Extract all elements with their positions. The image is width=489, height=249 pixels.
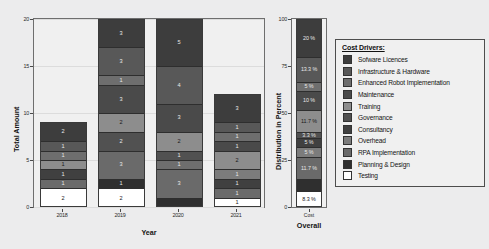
overall-y-axis-tick-mark bbox=[288, 207, 291, 208]
bar-segment[interactable]: 20 % bbox=[297, 20, 321, 58]
bar-segment[interactable]: 3 bbox=[215, 95, 260, 123]
y-axis-tick-mark bbox=[30, 19, 33, 20]
bar-segment[interactable]: 1 bbox=[215, 142, 260, 151]
bar-segment[interactable]: 1 bbox=[215, 189, 260, 198]
bar-segment[interactable]: 2 bbox=[41, 123, 86, 142]
bar-segment[interactable]: 11.7 % bbox=[297, 111, 321, 133]
y-axis-tick-mark bbox=[30, 207, 33, 208]
bar-segment[interactable]: 2 bbox=[99, 189, 144, 207]
legend-item-8[interactable]: RPA Implementation bbox=[341, 147, 479, 159]
bar-segment[interactable]: 3 bbox=[157, 170, 202, 198]
legend-item-label: Sofware Licences bbox=[358, 56, 408, 63]
legend-item-6[interactable]: Consultancy bbox=[341, 124, 479, 136]
bar-segment[interactable]: 3 bbox=[99, 20, 144, 48]
bar-segment[interactable]: 1 bbox=[99, 76, 144, 85]
overall-y-axis-tick-mark bbox=[288, 19, 291, 20]
legend-entries: Sofware LicencesInfrastructure & Hardwar… bbox=[341, 54, 479, 182]
legend-swatch-icon bbox=[343, 67, 352, 76]
legend-swatch-icon bbox=[343, 125, 352, 134]
bar-segment[interactable]: 1 bbox=[41, 170, 86, 179]
bar-segment[interactable]: 2 bbox=[41, 189, 86, 207]
bar-segment[interactable]: 1 bbox=[99, 180, 144, 189]
legend-item-3[interactable]: Maintenance bbox=[341, 89, 479, 101]
overall-y-axis-title: Distribution in Percent bbox=[274, 93, 283, 170]
bar-segment[interactable]: 3 bbox=[99, 86, 144, 114]
bar-segment[interactable]: 3 bbox=[99, 48, 144, 76]
bar-segment[interactable] bbox=[157, 199, 202, 207]
bar-segment[interactable]: 2 bbox=[157, 133, 202, 152]
bar-segment[interactable]: 4 bbox=[157, 67, 202, 105]
y-axis-tick-mark bbox=[30, 113, 33, 114]
bar-segment[interactable]: 1 bbox=[157, 161, 202, 170]
legend-swatch-icon bbox=[343, 160, 352, 169]
overall-y-axis-tick-label: 0 bbox=[271, 204, 287, 210]
y-axis-tick-label: 5 bbox=[13, 157, 29, 163]
overall-y-axis-tick-label: 75 bbox=[271, 63, 287, 69]
legend-item-5[interactable]: Governance bbox=[341, 112, 479, 124]
legend-title: Cost Drivers: bbox=[342, 44, 479, 51]
bar-segment[interactable]: 1 bbox=[41, 161, 86, 170]
legend-swatch-icon bbox=[343, 90, 352, 99]
legend-swatch-icon bbox=[343, 136, 352, 145]
bar-segment[interactable]: 5 % bbox=[297, 83, 321, 92]
legend-swatch-icon bbox=[343, 148, 352, 157]
bar-segment[interactable]: 8.3 % bbox=[297, 192, 321, 207]
stacked-bar-2018[interactable]: 2111112 bbox=[40, 122, 87, 207]
x-axis-tick-mark bbox=[178, 209, 179, 212]
bar-segment[interactable]: 1 bbox=[41, 180, 86, 189]
overall-y-axis-tick-mark bbox=[288, 113, 291, 114]
stacked-bar-overall[interactable]: 20 %13.3 %5 %10 %11.7 %3.3 %5 %5 %11.7 %… bbox=[296, 19, 322, 207]
legend-item-7[interactable]: Overhead bbox=[341, 135, 479, 147]
bar-segment[interactable]: 1 bbox=[215, 170, 260, 179]
legend-item-2[interactable]: Enhanced Robot Implementation bbox=[341, 77, 479, 89]
bar-segment[interactable]: 1 bbox=[41, 152, 86, 161]
y-axis-tick-label: 0 bbox=[13, 204, 29, 210]
overall-x-sublabel: Cost bbox=[289, 212, 329, 218]
years-plot-panel: 21111123313223125432113311121111 bbox=[33, 18, 265, 208]
legend-item-label: Planning & Design bbox=[358, 161, 410, 168]
legend-item-4[interactable]: Training bbox=[341, 100, 479, 112]
bar-segment[interactable] bbox=[297, 180, 321, 193]
bar-segment[interactable]: 3 bbox=[157, 105, 202, 133]
bar-segment[interactable]: 5 % bbox=[297, 148, 321, 157]
bar-segment[interactable]: 1 bbox=[157, 152, 202, 161]
bar-segment[interactable]: 5 bbox=[157, 20, 202, 67]
stacked-bar-2019[interactable]: 331322312 bbox=[98, 19, 145, 207]
legend-item-label: Infrastructure & Hardware bbox=[358, 68, 430, 75]
bar-segment[interactable]: 2 bbox=[99, 133, 144, 152]
overall-x-axis-title: Overall bbox=[289, 221, 329, 230]
bar-segment[interactable]: 1 bbox=[215, 123, 260, 132]
overall-plot-panel: 20 %13.3 %5 %10 %11.7 %3.3 %5 %5 %11.7 %… bbox=[291, 18, 327, 208]
legend-item-9[interactable]: Planning & Design bbox=[341, 158, 479, 170]
bar-segment[interactable]: 1 bbox=[215, 180, 260, 189]
legend-item-1[interactable]: Infrastructure & Hardware bbox=[341, 66, 479, 78]
bar-segment[interactable]: 11.7 % bbox=[297, 158, 321, 180]
stacked-bar-2021[interactable]: 311121111 bbox=[214, 94, 261, 207]
bar-segment[interactable]: 2 bbox=[99, 114, 144, 133]
bar-segment[interactable]: 13.3 % bbox=[297, 58, 321, 83]
legend-box: Cost Drivers: Sofware LicencesInfrastruc… bbox=[335, 39, 485, 187]
bar-segment[interactable]: 5 % bbox=[297, 139, 321, 148]
legend-item-label: Consultancy bbox=[358, 126, 393, 133]
legend-item-label: Maintenance bbox=[358, 91, 394, 98]
stacked-bar-2020[interactable]: 5432113 bbox=[156, 19, 203, 207]
bar-segment[interactable]: 2 bbox=[215, 152, 260, 171]
years-y-axis-title: Total Amount bbox=[12, 106, 21, 152]
bar-segment[interactable]: 1 bbox=[41, 142, 86, 151]
years-x-axis-title: Year bbox=[109, 228, 189, 237]
legend-swatch-icon bbox=[343, 113, 352, 122]
x-axis-tick-label: 2020 bbox=[158, 212, 198, 218]
y-axis-tick-label: 20 bbox=[13, 16, 29, 22]
bar-segment[interactable]: 3 bbox=[99, 152, 144, 180]
y-axis-tick-mark bbox=[30, 160, 33, 161]
legend-swatch-icon bbox=[343, 171, 352, 180]
bar-segment[interactable]: 10 % bbox=[297, 92, 321, 111]
legend-item-0[interactable]: Sofware Licences bbox=[341, 54, 479, 66]
x-axis-tick-mark bbox=[62, 209, 63, 212]
legend-item-10[interactable]: Testing bbox=[341, 170, 479, 182]
bar-segment[interactable]: 1 bbox=[215, 199, 260, 207]
x-axis-tick-label: 2021 bbox=[216, 212, 256, 218]
x-axis-tick-label: 2019 bbox=[100, 212, 140, 218]
legend-item-label: Enhanced Robot Implementation bbox=[358, 79, 450, 86]
bar-segment[interactable]: 1 bbox=[215, 133, 260, 142]
